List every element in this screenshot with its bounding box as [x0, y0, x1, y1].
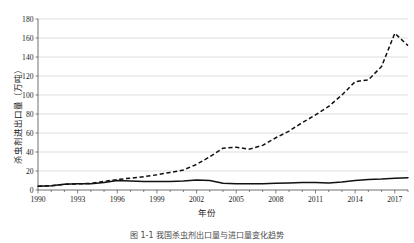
x-tick-label: 2002	[189, 195, 204, 204]
y-tick-label: 20	[26, 167, 34, 176]
series-line-export	[38, 33, 408, 186]
x-tick-label: 1990	[30, 195, 45, 204]
chart-figure: 杀虫剂进出口量（万吨） 0204060801001201401601801990…	[0, 0, 414, 243]
figure-caption: 图 1-1 我国杀虫剂出口量与进口量变化趋势	[0, 229, 414, 240]
series-line-import	[38, 178, 408, 187]
y-tick-label: 180	[22, 15, 34, 24]
x-tick-label: 2014	[348, 195, 363, 204]
x-tick-label: 2011	[308, 195, 323, 204]
x-tick-label: 1999	[149, 195, 164, 204]
y-tick-label: 80	[26, 110, 34, 119]
x-tick-label: 2008	[268, 195, 283, 204]
y-tick-label: 60	[26, 129, 34, 138]
y-tick-label: 140	[22, 53, 34, 62]
x-tick-label: 2017	[387, 195, 402, 204]
y-tick-label: 160	[22, 34, 34, 43]
x-tick-label: 2005	[229, 195, 244, 204]
y-axis-title: 杀虫剂进出口量（万吨）	[11, 39, 23, 189]
chart-plot-area: 0204060801001201401601801990199319961999…	[0, 0, 414, 210]
x-axis-title: 年份	[0, 206, 414, 218]
y-tick-label: 40	[26, 148, 34, 157]
y-tick-label: 0	[30, 186, 34, 195]
y-tick-label: 100	[22, 91, 34, 100]
y-tick-label: 120	[22, 72, 34, 81]
x-tick-label: 1993	[70, 195, 85, 204]
x-tick-label: 1996	[110, 195, 125, 204]
